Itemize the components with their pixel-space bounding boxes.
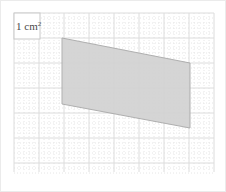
unit-square-label-exponent: 2 [38, 20, 42, 28]
grid-figure-canvas: 1 cm2 [0, 0, 226, 192]
unit-square-label-value: 1 cm [16, 20, 38, 32]
parallelogram-shape [62, 38, 190, 128]
grid-figure-root: 1 cm2 [0, 0, 226, 192]
